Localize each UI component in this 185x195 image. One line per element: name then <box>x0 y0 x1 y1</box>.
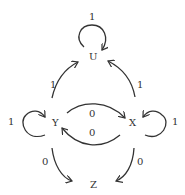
label-y-to-z: 0 <box>42 157 48 167</box>
label-x-to-y: 0 <box>89 128 95 138</box>
edge-y-self <box>23 111 45 136</box>
edge-x-to-z <box>116 148 134 181</box>
node-u: U <box>89 52 97 62</box>
label-x-self: 1 <box>172 117 178 127</box>
edge-u-self <box>79 25 106 50</box>
edge-y-to-x <box>67 104 125 118</box>
node-z: Z <box>90 180 97 190</box>
label-y-self: 1 <box>8 117 14 127</box>
node-x: X <box>129 118 136 128</box>
node-y: Y <box>52 118 59 128</box>
label-x-to-u: 1 <box>137 80 143 90</box>
label-y-to-x: 0 <box>89 109 95 119</box>
edge-x-to-u <box>108 61 135 97</box>
edge-x-self <box>143 111 166 136</box>
label-x-to-z: 0 <box>137 157 143 167</box>
label-u-self: 1 <box>89 12 95 22</box>
state-diagram <box>0 0 185 195</box>
label-y-to-u: 1 <box>50 80 56 90</box>
edge-y-to-z <box>52 148 72 181</box>
